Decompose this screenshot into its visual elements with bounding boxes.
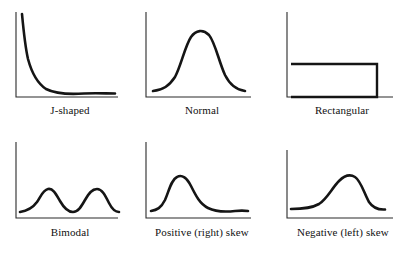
axis-lines	[146, 12, 251, 97]
negative-skew-curve	[291, 176, 385, 210]
bimodal-plot	[10, 138, 130, 222]
positive-skew-curve	[151, 176, 248, 212]
normal-plot	[141, 8, 263, 103]
positive-skew-plot	[141, 138, 263, 222]
panel-j-shaped	[10, 8, 130, 103]
j-shaped-plot	[10, 8, 130, 103]
caption-positive-skew: Positive (right) skew	[137, 226, 267, 238]
rectangular-plot	[281, 8, 403, 103]
rectangular-shape	[291, 64, 377, 97]
normal-curve	[153, 31, 245, 91]
panel-normal	[141, 8, 263, 103]
bimodal-curve	[20, 189, 119, 212]
caption-j-shaped: J-shaped	[10, 104, 130, 116]
panel-positive-skew	[141, 138, 263, 222]
axis-lines	[16, 12, 118, 97]
distribution-shapes-figure: J-shaped Normal Rectangular Bimodal Posi…	[0, 0, 411, 263]
caption-rectangular: Rectangular	[281, 104, 403, 116]
caption-negative-skew: Negative (left) skew	[278, 226, 408, 238]
caption-bimodal: Bimodal	[10, 226, 130, 238]
panel-rectangular	[281, 8, 403, 103]
negative-skew-plot	[281, 138, 403, 222]
panel-bimodal	[10, 138, 130, 222]
caption-normal: Normal	[141, 104, 263, 116]
panel-negative-skew	[281, 138, 403, 222]
j-shaped-curve	[22, 14, 115, 94]
